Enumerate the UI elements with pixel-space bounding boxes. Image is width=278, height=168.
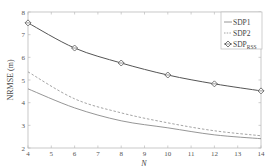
y-tick-label: 2: [22, 145, 26, 153]
series-line-sdp1: [28, 89, 261, 139]
line-chart: 45678910111213142345678 N NRMSE (m) SDP1…: [0, 0, 278, 168]
x-tick-label: 7: [96, 150, 100, 158]
x-tick-label: 14: [258, 150, 266, 158]
y-tick-label: 6: [22, 54, 26, 62]
x-tick-label: 10: [164, 150, 172, 158]
x-tick-label: 13: [234, 150, 242, 158]
legend-entry-sdp1: SDP1: [233, 18, 251, 27]
y-tick-label: 7: [22, 31, 26, 39]
x-tick-label: 5: [50, 150, 54, 158]
x-tick-label: 12: [211, 150, 219, 158]
x-tick-label: 6: [73, 150, 77, 158]
x-tick-label: 11: [188, 150, 195, 158]
y-tick-label: 8: [22, 9, 26, 17]
y-tick-label: 3: [22, 122, 26, 130]
x-axis-label: N: [140, 159, 147, 168]
legend-entry-sdp2: SDP2: [233, 29, 251, 38]
x-tick-label: 9: [143, 150, 147, 158]
y-axis-label: NRMSE (m): [6, 59, 15, 100]
x-tick-label: 4: [26, 150, 30, 158]
y-tick-label: 5: [22, 77, 26, 85]
x-tick-label: 8: [119, 150, 123, 158]
y-tick-label: 4: [22, 99, 26, 107]
legend: SDP1SDP2SDPRSS: [221, 12, 262, 50]
